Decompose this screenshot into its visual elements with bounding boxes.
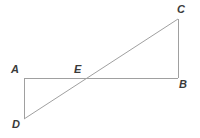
vertex-label-b: B bbox=[179, 79, 187, 90]
vertex-label-d: D bbox=[12, 119, 20, 130]
vertex-label-c: C bbox=[177, 4, 185, 15]
figure-canvas bbox=[0, 0, 200, 138]
vertex-label-a: A bbox=[11, 64, 19, 75]
geometry-figure: A E B C D bbox=[0, 0, 200, 138]
figure-background bbox=[0, 0, 200, 138]
vertex-label-e: E bbox=[74, 64, 81, 75]
